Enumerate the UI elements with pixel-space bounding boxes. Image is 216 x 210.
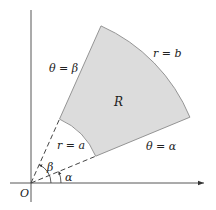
region-r	[60, 26, 190, 156]
angle-alpha-arc	[59, 172, 61, 184]
label-outer-arc: r = b	[153, 47, 182, 60]
label-inner-arc: r = a	[57, 139, 85, 152]
label-angle-alpha: α	[65, 171, 73, 184]
polar-region-diagram: r = b θ = β R r = a θ = α β α O	[0, 0, 216, 210]
label-region: R	[113, 95, 123, 109]
label-origin: O	[20, 187, 29, 200]
label-ray-beta: θ = β	[49, 62, 78, 75]
label-angle-beta: β	[46, 161, 53, 174]
label-ray-alpha: θ = α	[146, 140, 177, 153]
